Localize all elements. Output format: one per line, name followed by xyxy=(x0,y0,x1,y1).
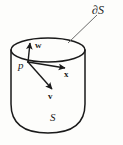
diagram-canvas xyxy=(0,0,123,145)
boundary-leader-line xyxy=(68,15,97,43)
vector-x-arrow xyxy=(28,62,65,68)
point-p-marker xyxy=(27,61,29,63)
vector-v-label: v xyxy=(48,92,53,101)
surface-boundary-diagram: ∂S p w x v S xyxy=(0,0,123,145)
vector-x-label: x xyxy=(64,70,69,79)
vector-w-arrow xyxy=(28,43,30,62)
vector-v-arrow xyxy=(28,62,52,89)
vector-w-label: w xyxy=(35,41,42,50)
boundary-label: ∂S xyxy=(92,4,104,16)
surface-label: S xyxy=(50,112,56,123)
point-p-label: p xyxy=(18,60,24,71)
